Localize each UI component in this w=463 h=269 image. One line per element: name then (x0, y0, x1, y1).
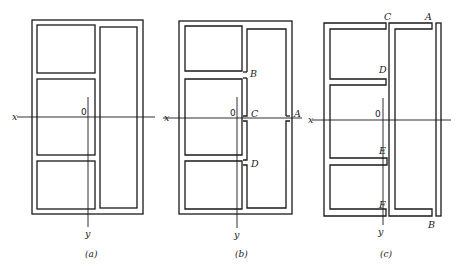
open-section-channel (389, 23, 432, 216)
point-label-a: A (293, 108, 301, 119)
cell-bottom-left (37, 161, 95, 209)
point-label-b: B (249, 68, 257, 79)
origin-label: 0 (375, 109, 381, 119)
figure-a: x y 0 (a) (12, 20, 155, 259)
right-plate (436, 23, 441, 216)
slit-c-upper (243, 78, 247, 116)
cell-top-left (185, 26, 242, 71)
diagram-canvas: x y 0 (a) x y 0 B C A D (b) (0, 0, 463, 269)
cell-bottom-left (185, 161, 242, 209)
figure-c: x y 0 C A D E F B (c) (308, 11, 451, 259)
cell-top-left (37, 25, 95, 73)
figure-b: x y 0 B C A D (b) (163, 21, 302, 259)
point-label-c: C (384, 11, 392, 22)
y-axis-label: y (233, 229, 240, 240)
x-axis-label: x (164, 112, 170, 123)
origin-label: 0 (81, 107, 87, 117)
x-axis-label: x (308, 114, 314, 125)
y-axis-label: y (84, 228, 91, 239)
figure-caption: (a) (85, 249, 98, 259)
point-label-e: E (378, 145, 386, 156)
figure-caption: (b) (235, 249, 248, 259)
point-label-a: A (424, 11, 432, 22)
cell-right (100, 27, 137, 208)
origin-label: 0 (230, 108, 236, 118)
slit-c-lower (243, 121, 247, 160)
figure-caption: (c) (380, 249, 393, 259)
open-section-left (324, 23, 387, 216)
point-label-d: D (250, 158, 259, 169)
point-label-c: C (251, 108, 259, 119)
y-axis-label: y (377, 226, 384, 237)
point-label-f: F (378, 199, 386, 210)
point-label-d: D (378, 64, 387, 75)
point-label-b: B (427, 219, 435, 230)
x-axis-label: x (12, 111, 18, 122)
